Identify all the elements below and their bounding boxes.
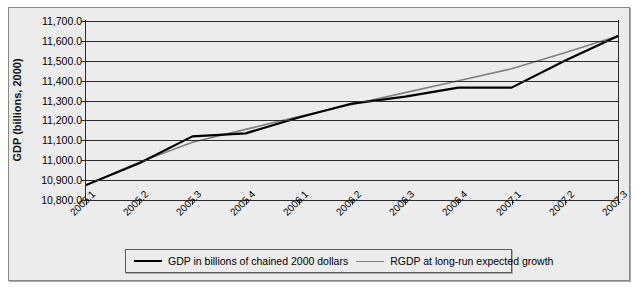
- gridline: [86, 180, 618, 181]
- gridline: [86, 81, 618, 82]
- y-axis-tick-mark: [81, 61, 86, 62]
- chart-legend: GDP in billions of chained 2000 dollarsR…: [125, 249, 512, 273]
- gridline: [86, 160, 618, 161]
- top-cutoff-sliver: [0, 0, 638, 6]
- y-axis-line: [85, 20, 86, 201]
- gridline: [86, 120, 618, 121]
- y-axis-tick-label: 11,100.0: [42, 134, 82, 146]
- y-axis-tick-mark: [81, 101, 86, 102]
- y-axis-tick-mark: [81, 120, 86, 121]
- y-axis-tick-mark: [81, 41, 86, 42]
- y-axis-tick-label: 11,000.0: [42, 154, 82, 166]
- plot-right-border: [618, 20, 619, 201]
- gridline: [86, 140, 618, 141]
- gridline: [86, 101, 618, 102]
- legend-entry: RGDP at long-run expected growth: [348, 255, 553, 267]
- y-axis-tick-mark: [81, 180, 86, 181]
- y-axis-tick-label: 10,900.0: [41, 174, 82, 186]
- gridline: [86, 21, 618, 22]
- y-axis-tick-label: 11,300.0: [42, 95, 82, 107]
- y-axis-tick-label: 11,400.0: [42, 75, 82, 87]
- y-axis-tick-label: 11,700.0: [42, 15, 82, 27]
- series-line-rgdp-trend: [86, 36, 618, 185]
- y-axis-tick-label: 11,200.0: [42, 114, 82, 126]
- plot-area: [86, 21, 618, 200]
- series-lines: [86, 21, 618, 200]
- y-axis-tick-mark: [81, 21, 86, 22]
- y-axis-tick-label: 11,500.0: [42, 55, 82, 67]
- legend-entry: GDP in billions of chained 2000 dollars: [126, 255, 348, 267]
- y-axis-tick-mark: [81, 200, 86, 201]
- legend-label: GDP in billions of chained 2000 dollars: [168, 255, 348, 267]
- y-axis-tick-mark: [81, 140, 86, 141]
- y-axis-title: GDP (billions, 2000): [11, 35, 23, 185]
- gridline: [86, 41, 618, 42]
- legend-label: RGDP at long-run expected growth: [390, 255, 553, 267]
- chart-figure: 11,700.011,600.011,500.011,400.011,300.0…: [0, 0, 638, 289]
- y-axis-tick-mark: [81, 81, 86, 82]
- legend-swatch-rgdp-trend: [356, 261, 384, 262]
- series-line-gdp: [86, 36, 618, 185]
- legend-swatch-gdp: [134, 260, 162, 262]
- y-axis-tick-label: 11,600.0: [42, 35, 82, 47]
- gridline: [86, 61, 618, 62]
- y-axis-tick-mark: [81, 160, 86, 161]
